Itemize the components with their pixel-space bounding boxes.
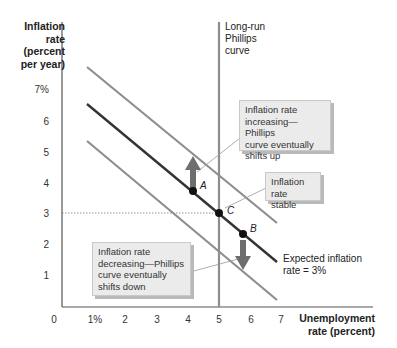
x-tick: 6 bbox=[248, 314, 254, 325]
callout-line: rate stable bbox=[271, 188, 315, 211]
y-tick: 7% bbox=[35, 84, 49, 95]
lrpc-label-line: curve bbox=[225, 45, 265, 57]
y-tick: 1 bbox=[43, 270, 49, 281]
y-tick: 2 bbox=[43, 239, 49, 250]
lrpc-label-line: Phillips bbox=[225, 33, 265, 45]
point-b-marker bbox=[239, 230, 247, 238]
point-c-label: C bbox=[227, 205, 234, 216]
callout-inflation-stable: Inflation rate stable bbox=[265, 172, 321, 201]
expected-inflation-line: Expected inflation bbox=[283, 253, 362, 265]
y-axis-label-line: rate bbox=[21, 33, 65, 46]
lrpc-label: Long-run Phillips curve bbox=[225, 21, 265, 57]
y-tick: 6 bbox=[43, 116, 49, 127]
callout-line: Inflation rate bbox=[245, 104, 325, 116]
x-tick: 3 bbox=[154, 314, 160, 325]
y-axis-label-line: Inflation bbox=[21, 20, 65, 33]
y-tick: 3 bbox=[43, 208, 49, 219]
x-axis-label-line: Unemployment bbox=[299, 312, 375, 325]
callout-line: curve eventually bbox=[245, 139, 325, 151]
expected-inflation-line: rate = 3% bbox=[283, 265, 362, 277]
point-b-label: B bbox=[250, 223, 257, 234]
point-c-marker bbox=[215, 209, 223, 217]
lrpc-label-line: Long-run bbox=[225, 21, 265, 33]
callout-inflation-increasing: Inflation rate increasing—Phillips curve… bbox=[239, 100, 331, 151]
arrow-up-icon bbox=[185, 156, 201, 188]
callout-line: shifts down bbox=[98, 281, 185, 293]
x-axis-label-line: rate (percent) bbox=[299, 325, 375, 338]
callout-line: Inflation bbox=[271, 176, 315, 188]
callout-line: increasing—Phillips bbox=[245, 116, 325, 139]
callout-inflation-decreasing: Inflation rate decreasing—Phillips curve… bbox=[92, 242, 191, 296]
callout-line: curve eventually bbox=[98, 269, 185, 281]
x-tick: 1% bbox=[88, 314, 102, 325]
y-tick: 5 bbox=[43, 147, 49, 158]
y-axis-label: Inflation rate (percent per year) bbox=[21, 20, 65, 70]
y-axis-label-line: per year) bbox=[21, 58, 65, 71]
x-axis-label: Unemployment rate (percent) bbox=[299, 312, 375, 337]
x-tick: 7 bbox=[278, 314, 284, 325]
callout-line: Inflation rate bbox=[98, 246, 185, 258]
x-tick: 2 bbox=[122, 314, 128, 325]
y-tick: 4 bbox=[43, 178, 49, 189]
point-a-marker bbox=[189, 187, 197, 195]
point-a-label: A bbox=[200, 180, 207, 191]
x-tick: 0 bbox=[51, 314, 57, 325]
x-tick: 4 bbox=[185, 314, 191, 325]
callout-line: shifts up bbox=[245, 150, 325, 162]
expected-inflation-label: Expected inflation rate = 3% bbox=[283, 253, 362, 277]
callout-line: decreasing—Phillips bbox=[98, 258, 185, 270]
y-axis-label-line: (percent bbox=[21, 45, 65, 58]
x-tick: 5 bbox=[216, 314, 222, 325]
